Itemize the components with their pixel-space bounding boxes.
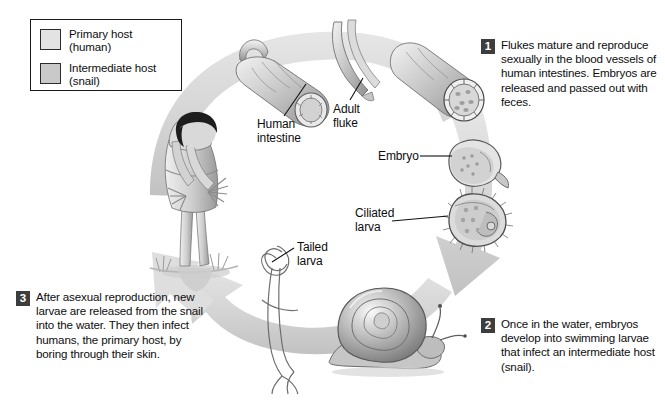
callout-embryo: Embryo [378, 150, 419, 164]
callout-human-intestine-line1: Human [257, 117, 295, 131]
callout-human-intestine: Human intestine [257, 118, 301, 145]
callout-tailed-larva-line1: Tailed [297, 240, 328, 254]
embryo-egg-illustration [449, 140, 509, 188]
step-2-badge: 2 [481, 318, 495, 333]
callout-adult-fluke: Adult fluke [333, 103, 360, 130]
callout-adult-fluke-line1: Adult [333, 102, 360, 116]
intermediate-host-label-line2: (snail) [69, 75, 100, 87]
primary-host-swatch [40, 29, 61, 50]
step-2-block: 2 Once in the water, embryos develop int… [481, 317, 661, 374]
tailed-larva-illustration [262, 246, 298, 394]
primary-host-label-line1: Primary host [69, 28, 132, 40]
step-3-text: After asexual reproduction, new larvae a… [36, 290, 212, 361]
callout-tailed-larva: Tailed larva [297, 241, 328, 268]
callout-ciliated-larva-line1: Ciliated [355, 206, 394, 220]
primary-host-label: Primary host (human) [69, 28, 132, 53]
callout-ciliated-larva-line2: larva [355, 220, 381, 234]
primary-host-label-line2: (human) [69, 41, 111, 53]
legend-item-intermediate-host: Intermediate host (snail) [40, 62, 173, 87]
step-1-text: Flukes mature and reproduce sexually in … [501, 38, 661, 109]
intermediate-host-label: Intermediate host (snail) [69, 62, 156, 87]
callout-tailed-larva-line2: larva [297, 254, 323, 268]
legend-box: Primary host (human) Intermediate host (… [30, 19, 182, 91]
intestine-segment-right-illustration [390, 43, 484, 121]
step-1-badge: 1 [481, 39, 495, 54]
step-3-badge: 3 [16, 291, 30, 306]
diagram-canvas: Primary host (human) Intermediate host (… [0, 0, 665, 402]
callout-embryo-line1: Embryo [378, 149, 419, 163]
intermediate-host-swatch [40, 63, 61, 84]
step-1-block: 1 Flukes mature and reproduce sexually i… [481, 38, 661, 109]
legend-item-primary-host: Primary host (human) [40, 28, 173, 53]
callout-human-intestine-line2: intestine [257, 131, 301, 145]
callout-ciliated-larva: Ciliated larva [355, 207, 394, 234]
snail-illustration [329, 288, 467, 377]
step-2-text: Once in the water, embryos develop into … [501, 317, 661, 374]
callout-adult-fluke-line2: fluke [333, 116, 358, 130]
step-3-block: 3 After asexual reproduction, new larvae… [16, 290, 212, 361]
intermediate-host-label-line1: Intermediate host [69, 62, 156, 74]
